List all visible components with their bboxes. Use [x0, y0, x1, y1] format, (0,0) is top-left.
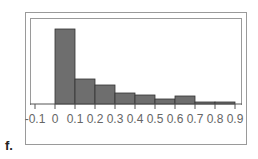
x-tick-label: 0.4	[127, 112, 144, 126]
x-tick-label: -0.1	[25, 112, 46, 126]
x-tick-label: 0.2	[87, 112, 104, 126]
histogram-bar	[55, 29, 75, 104]
histogram-bar	[115, 93, 135, 104]
x-tick-label: 0.3	[107, 112, 124, 126]
panel-label: f.	[5, 138, 13, 153]
x-tick-label: 0.5	[147, 112, 164, 126]
x-tick-label: 0.9	[227, 112, 244, 126]
x-tick-label: 0.8	[207, 112, 224, 126]
x-tick-label: 0.7	[187, 112, 204, 126]
histogram-bar	[175, 96, 195, 104]
histogram-bar	[75, 79, 95, 104]
x-tick-label: 0.1	[67, 112, 84, 126]
x-tick-label: 0.6	[167, 112, 184, 126]
histogram-bar	[155, 99, 175, 104]
histogram-plot: -0.100.10.20.30.40.50.60.70.80.9	[0, 0, 258, 159]
x-tick-label: 0	[52, 112, 59, 126]
histogram-bar	[135, 95, 155, 104]
histogram-bar	[95, 85, 115, 104]
